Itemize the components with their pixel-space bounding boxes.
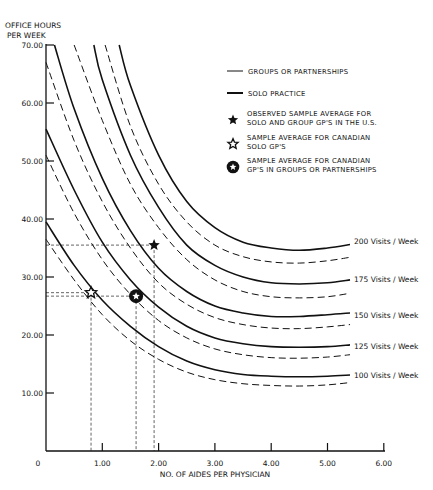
x-tick-label: 1.00	[94, 459, 111, 468]
curve-label: 200 Visits / Week	[354, 237, 419, 246]
y-tick-label: 30.00	[22, 273, 44, 282]
curve	[105, 45, 350, 263]
curve	[46, 155, 350, 358]
y-tick-label: 70.00	[22, 41, 44, 50]
y-tick-label: 10.00	[22, 389, 44, 398]
svg-text:SOLO AND GROUP GP'S IN THE U.S: SOLO AND GROUP GP'S IN THE U.S.	[247, 119, 377, 127]
svg-text:GP'S IN GROUPS OR PARTNERSHIPS: GP'S IN GROUPS OR PARTNERSHIPS	[247, 166, 377, 174]
curve-label: 125 Visits / Week	[354, 342, 419, 351]
y-axis-ticks: 10.0020.0030.0040.0050.0060.0070.00	[22, 41, 54, 398]
dashed-guide-lines	[46, 245, 154, 451]
svg-text:PER WEEK: PER WEEK	[7, 31, 47, 40]
y-axis-label: OFFICE HOURSPER WEEK	[5, 21, 61, 40]
svg-text:SAMPLE AVERAGE FOR CANADIAN: SAMPLE AVERAGE FOR CANADIAN	[247, 157, 371, 165]
svg-text:SOLO GP'S: SOLO GP'S	[247, 143, 286, 151]
curve	[46, 239, 350, 386]
legend: GROUPS OR PARTNERSHIPSSOLO PRACTICEOBSER…	[227, 68, 377, 174]
svg-text:OFFICE HOURS: OFFICE HOURS	[5, 21, 61, 30]
x-axis-label: NO. OF AIDES PER PHYSICIAN	[160, 470, 270, 479]
x-tick-label: 3.00	[207, 459, 224, 468]
x-tick-label: 0	[36, 459, 41, 468]
y-tick-label: 60.00	[22, 99, 44, 108]
x-tick-label: 2.00	[150, 459, 167, 468]
y-tick-label: 20.00	[22, 331, 44, 340]
svg-text:OBSERVED SAMPLE AVERAGE FOR: OBSERVED SAMPLE AVERAGE FOR	[247, 110, 371, 118]
x-axis-ticks: 01.002.003.004.005.006.00	[36, 443, 393, 468]
x-tick-label: 5.00	[319, 459, 336, 468]
curve-labels: 200 Visits / Week175 Visits / Week150 Vi…	[354, 237, 419, 380]
svg-text:SAMPLE AVERAGE FOR CANADIAN: SAMPLE AVERAGE FOR CANADIAN	[247, 134, 371, 142]
curve-label: 150 Visits / Week	[354, 311, 419, 320]
svg-text:SOLO PRACTICE: SOLO PRACTICE	[248, 90, 306, 98]
curve-label: 175 Visits / Week	[354, 275, 419, 284]
y-tick-label: 50.00	[22, 157, 44, 166]
curve	[54, 45, 350, 317]
svg-text:GROUPS OR PARTNERSHIPS: GROUPS OR PARTNERSHIPS	[248, 68, 348, 76]
office-hours-chart: 10.0020.0030.0040.0050.0060.0070.00 01.0…	[0, 0, 433, 490]
x-tick-label: 6.00	[375, 459, 392, 468]
y-tick-label: 40.00	[22, 215, 44, 224]
curve-label: 100 Visits / Week	[354, 371, 419, 380]
x-tick-label: 4.00	[263, 459, 280, 468]
